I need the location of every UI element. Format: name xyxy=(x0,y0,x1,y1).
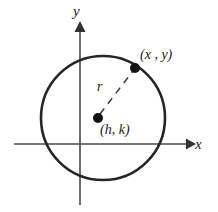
x-axis-label: x xyxy=(195,137,202,152)
radius-label: r xyxy=(97,80,102,94)
center-point-label: (h, k) xyxy=(100,123,130,137)
arrow-up-icon xyxy=(75,21,86,32)
circle-point-dot xyxy=(130,63,140,73)
y-axis-label: y xyxy=(73,4,80,19)
circle-point-label: (x , y) xyxy=(140,48,172,62)
circle-diagram: y x (x , y) (h, k) r xyxy=(0,0,218,212)
diagram-canvas xyxy=(0,0,218,212)
radius-segment xyxy=(100,71,133,114)
